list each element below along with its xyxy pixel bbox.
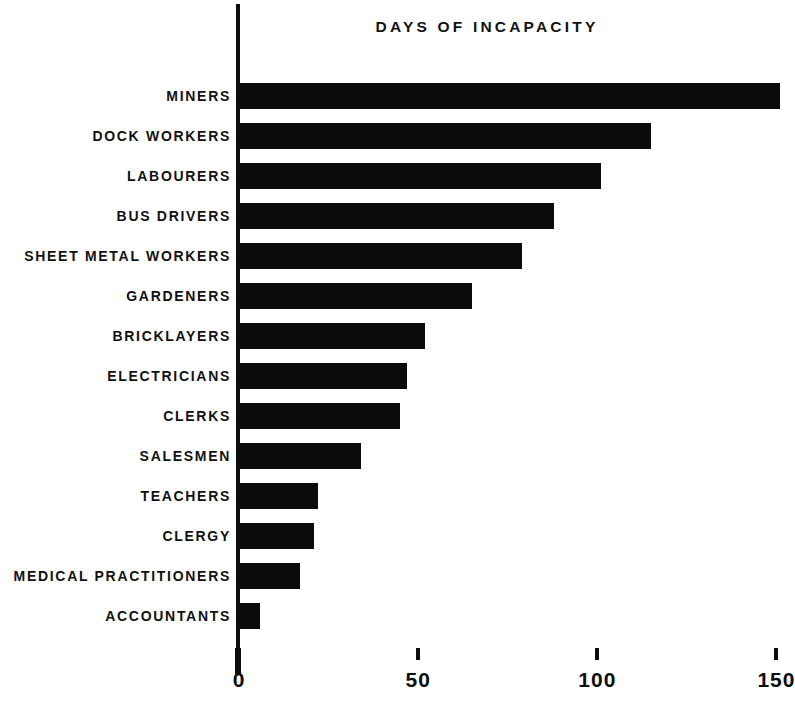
bar	[239, 483, 318, 509]
bar	[239, 323, 425, 349]
bar-category-label: MEDICAL PRACTITIONERS	[14, 556, 235, 596]
bar-row: CLERGY	[0, 516, 794, 556]
bar-row: SALESMEN	[0, 436, 794, 476]
bar-category-label: BRICKLAYERS	[112, 316, 235, 356]
bar-category-label: SALESMEN	[140, 436, 235, 476]
bar-row: CLERKS	[0, 396, 794, 436]
x-axis-tick-label: 0	[233, 668, 246, 692]
bar	[239, 523, 314, 549]
bar-category-label: LABOURERS	[127, 156, 235, 196]
x-axis-tick-label: 100	[578, 668, 616, 692]
x-axis-tick	[595, 648, 599, 660]
bar-row: GARDENERS	[0, 276, 794, 316]
x-axis-tick-label: 50	[405, 668, 430, 692]
bar-category-label: BUS DRIVERS	[117, 196, 235, 236]
bar	[239, 363, 407, 389]
bar	[239, 83, 780, 109]
x-axis: 050100150	[0, 648, 794, 710]
bar	[239, 123, 651, 149]
x-axis-tick	[774, 648, 778, 660]
bar-row: MINERS	[0, 76, 794, 116]
bar-row: ELECTRICIANS	[0, 356, 794, 396]
bar-category-label: TEACHERS	[140, 476, 235, 516]
bar	[239, 603, 260, 629]
bar	[239, 563, 300, 589]
bar-category-label: ELECTRICIANS	[107, 356, 235, 396]
bar	[239, 403, 400, 429]
bar	[239, 203, 554, 229]
bar-row: DOCK WORKERS	[0, 116, 794, 156]
bar	[239, 243, 522, 269]
bar-row: LABOURERS	[0, 156, 794, 196]
bar-category-label: ACCOUNTANTS	[105, 596, 235, 636]
bar-row: ACCOUNTANTS	[0, 596, 794, 636]
bar-row: TEACHERS	[0, 476, 794, 516]
bar-category-label: CLERKS	[163, 396, 235, 436]
x-axis-tick	[416, 648, 420, 660]
bar-category-label: MINERS	[166, 76, 235, 116]
bar-row: SHEET METAL WORKERS	[0, 236, 794, 276]
bar-row: BUS DRIVERS	[0, 196, 794, 236]
bar	[239, 163, 601, 189]
bar-row: BRICKLAYERS	[0, 316, 794, 356]
bar	[239, 443, 361, 469]
bar	[239, 283, 472, 309]
bar-category-label: GARDENERS	[126, 276, 235, 316]
bar-category-label: CLERGY	[162, 516, 235, 556]
bar-category-label: SHEET METAL WORKERS	[24, 236, 235, 276]
x-axis-tick-label: 150	[757, 668, 795, 692]
bar-category-label: DOCK WORKERS	[92, 116, 235, 156]
bar-row: MEDICAL PRACTITIONERS	[0, 556, 794, 596]
